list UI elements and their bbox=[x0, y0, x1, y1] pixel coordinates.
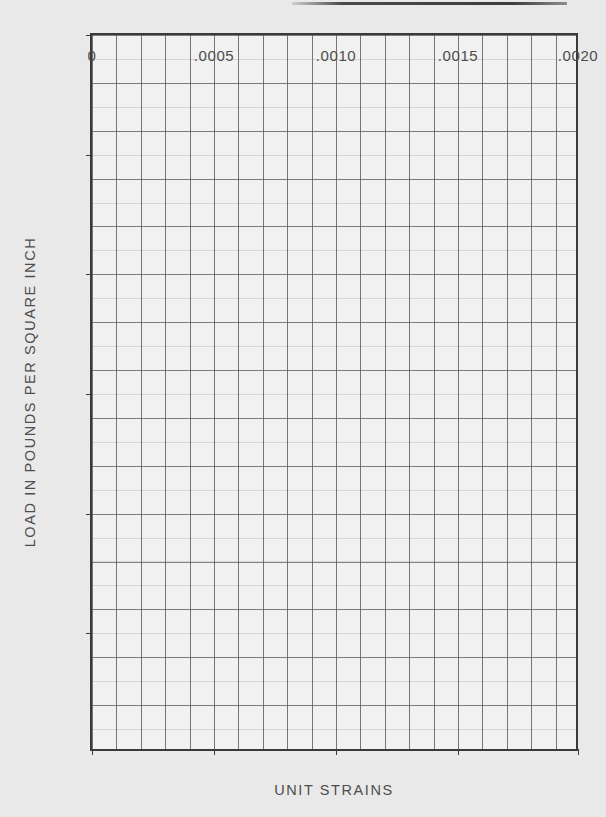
x-tick-label-0: 0 bbox=[88, 47, 97, 64]
y-tick-2000 bbox=[86, 274, 92, 275]
x-tick-0005 bbox=[214, 749, 215, 755]
x-tick-label-0005: .0005 bbox=[194, 47, 235, 64]
y-tick-1000 bbox=[86, 514, 92, 515]
x-tick-0010 bbox=[336, 749, 337, 755]
grid-major-lines bbox=[92, 35, 576, 749]
x-tick-label-0020: .0020 bbox=[558, 47, 599, 64]
x-tick-0015 bbox=[458, 749, 459, 755]
x-tick-0020 bbox=[578, 749, 579, 755]
y-tick-3000 bbox=[86, 35, 92, 36]
y-tick-2500 bbox=[86, 155, 92, 156]
y-axis-title: LOAD IN POUNDS PER SQUARE INCH bbox=[22, 237, 38, 548]
y-tick-1500 bbox=[86, 394, 92, 395]
chart-figure: LOAD IN POUNDS PER SQUARE INCH 3000 2500… bbox=[0, 0, 606, 817]
x-axis-title: UNIT STRAINS bbox=[274, 782, 394, 798]
x-tick-label-0010: .0010 bbox=[316, 47, 357, 64]
plot-area: 3000 2500 2000 1500 1000 500 0 .0005 .00… bbox=[90, 33, 578, 751]
y-tick-500 bbox=[86, 633, 92, 634]
x-tick-0 bbox=[92, 749, 93, 755]
x-tick-label-0015: .0015 bbox=[438, 47, 479, 64]
